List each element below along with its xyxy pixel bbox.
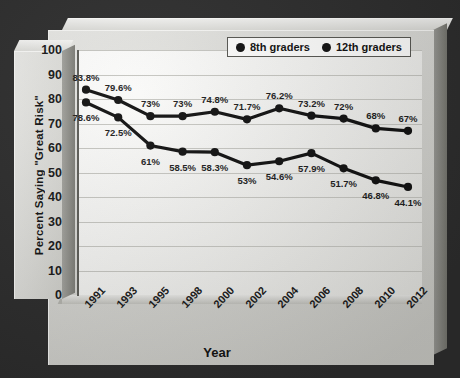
y-title-right-bevel bbox=[62, 45, 75, 299]
y-tick-label: 40 bbox=[32, 190, 62, 204]
panel-top-bevel bbox=[62, 18, 453, 30]
data-point-label: 73% bbox=[141, 98, 160, 109]
data-point-marker[interactable] bbox=[114, 113, 122, 121]
data-point-label: 44.1% bbox=[395, 196, 422, 207]
y-tick-label: 70 bbox=[32, 117, 62, 131]
data-point-label: 54.6% bbox=[266, 171, 293, 182]
data-point-marker[interactable] bbox=[82, 86, 90, 94]
circle-dot-icon bbox=[236, 43, 245, 52]
legend-item-12th[interactable]: 12th graders bbox=[322, 41, 402, 53]
data-point-marker[interactable] bbox=[146, 141, 154, 149]
data-point-label: 72.5% bbox=[105, 127, 132, 138]
legend[interactable]: 8th graders 12th graders bbox=[227, 37, 411, 57]
x-axis-title: Year bbox=[0, 345, 434, 360]
data-point-marker[interactable] bbox=[146, 112, 154, 120]
data-point-label: 83.8% bbox=[73, 71, 100, 82]
data-point-marker[interactable] bbox=[340, 115, 348, 123]
y-tick-label: 90 bbox=[32, 68, 62, 82]
data-point-label: 68% bbox=[366, 110, 385, 121]
data-point-label: 74.8% bbox=[201, 93, 228, 104]
data-point-label: 58.3% bbox=[201, 162, 228, 173]
y-tick-label: 10 bbox=[32, 264, 62, 278]
data-point-label: 58.5% bbox=[169, 161, 196, 172]
data-point-marker[interactable] bbox=[404, 127, 412, 135]
data-point-label: 79.6% bbox=[105, 81, 132, 92]
data-point-label: 53% bbox=[237, 175, 256, 186]
data-point-marker[interactable] bbox=[275, 104, 283, 112]
data-point-label: 61% bbox=[141, 155, 160, 166]
legend-item-8th[interactable]: 8th graders bbox=[236, 41, 310, 53]
legend-label-12th: 12th graders bbox=[336, 41, 402, 53]
chart-screenshot: 83.8%79.6%73%73%74.8%71.7%76.2%73.2%72%6… bbox=[0, 0, 460, 378]
data-point-label: 72% bbox=[334, 100, 353, 111]
data-point-label: 73% bbox=[173, 98, 192, 109]
data-point-marker[interactable] bbox=[179, 148, 187, 156]
data-point-label: 51.7% bbox=[330, 178, 357, 189]
data-point-label: 71.7% bbox=[234, 101, 261, 112]
data-point-marker[interactable] bbox=[307, 149, 315, 157]
circle-dot-icon bbox=[322, 43, 331, 52]
data-point-marker[interactable] bbox=[179, 112, 187, 120]
data-point-marker[interactable] bbox=[114, 96, 122, 104]
data-point-label: 76.2% bbox=[266, 90, 293, 101]
panel-right-bevel bbox=[433, 23, 447, 355]
data-point-marker[interactable] bbox=[307, 112, 315, 120]
data-point-marker[interactable] bbox=[372, 124, 380, 132]
data-point-marker[interactable] bbox=[275, 157, 283, 165]
data-point-label: 73.2% bbox=[298, 97, 325, 108]
data-point-marker[interactable] bbox=[404, 183, 412, 191]
data-point-label: 57.9% bbox=[298, 163, 325, 174]
data-point-marker[interactable] bbox=[82, 98, 90, 106]
y-tick-label: 60 bbox=[32, 141, 62, 155]
y-tick-label: 30 bbox=[32, 215, 62, 229]
data-point-marker[interactable] bbox=[243, 161, 251, 169]
y-tick-label: 80 bbox=[32, 92, 62, 106]
data-point-marker[interactable] bbox=[372, 176, 380, 184]
y-tick-label: 100 bbox=[32, 43, 62, 57]
data-point-label: 46.8% bbox=[362, 190, 389, 201]
y-tick-label: 0 bbox=[32, 288, 62, 302]
data-point-marker[interactable] bbox=[211, 108, 219, 116]
data-point-label: 67% bbox=[398, 112, 417, 123]
y-axis-ticks: 1009080706050403020100 bbox=[14, 51, 62, 299]
data-point-label: 78.6% bbox=[73, 112, 100, 123]
data-point-marker[interactable] bbox=[243, 115, 251, 123]
legend-label-8th: 8th graders bbox=[250, 41, 310, 53]
data-point-marker[interactable] bbox=[340, 164, 348, 172]
data-point-marker[interactable] bbox=[211, 148, 219, 156]
y-tick-label: 20 bbox=[32, 239, 62, 253]
y-tick-label: 50 bbox=[32, 166, 62, 180]
